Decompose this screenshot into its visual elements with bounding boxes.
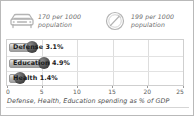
bar-label-health: Health 1.4% [13,74,58,82]
xtick-label-15: 15 [108,88,116,95]
car-icon [9,9,35,33]
stat-cars-text: 170 per 1000 population [38,13,81,28]
xtick-label-0: 0 [6,88,10,95]
infographic-panel: 170 per 1000 population 199 per 1000 pop… [0,0,194,116]
stats-row: 170 per 1000 population 199 per 1000 pop… [5,5,191,36]
bar-row-health: Health 1.4% [7,71,183,87]
bar-row-education: Education 4.9% [7,56,183,72]
chart-plot-area: Defense 3.1% Education 4.9% Health 1.4% [6,39,184,86]
chart-x-axis: 0 5 10 15 20 25 [6,86,184,96]
xtick-label-20: 20 [143,88,151,95]
xtick-label-5: 5 [40,88,44,95]
caption-divider [6,107,189,108]
xtick-label-10: 10 [73,88,81,95]
stat-telephones-text: 199 per 1000 population [131,13,174,28]
chart-caption: Defense, Health, Education spending as %… [7,97,189,105]
bar-row-defense: Defense 3.1% [7,40,183,56]
telephone-dial-icon [102,9,128,33]
bar-label-education: Education 4.9% [13,59,70,67]
stat-cars: 170 per 1000 population [5,5,98,36]
stat-telephones: 199 per 1000 population [98,5,191,36]
chart-bars: Defense 3.1% Education 4.9% Health 1.4% [7,40,183,85]
bar-label-defense: Defense 3.1% [13,43,64,51]
xtick-label-25: 25 [176,88,184,95]
